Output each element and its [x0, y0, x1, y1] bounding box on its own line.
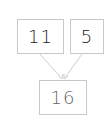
- node-16-sum: 16: [39, 80, 87, 115]
- node-11: 11: [17, 19, 64, 54]
- node-5: 5: [70, 19, 104, 54]
- edge-5-to-16: [64, 54, 82, 79]
